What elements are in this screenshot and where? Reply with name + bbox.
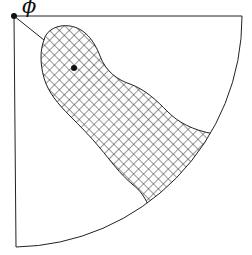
origin-dot [11,13,17,19]
left-edge [14,16,16,247]
angle-phi-label: ϕ [22,0,36,17]
center-dot [71,65,77,71]
sector-diagram [0,0,252,255]
hatched-region [41,26,248,230]
angle-ray [14,16,44,40]
